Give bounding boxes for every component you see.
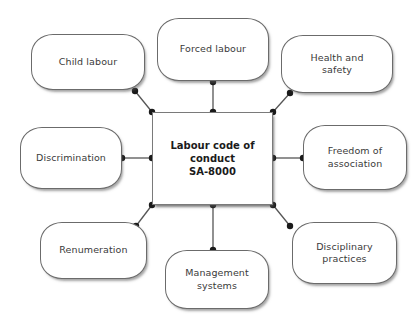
node-forced-labour[interactable]: Forced labour [157, 18, 269, 81]
node-center-labour-code-label: Labour code ofconductSA-8000 [170, 139, 254, 178]
node-forced-labour-label: Forced labour [174, 43, 252, 56]
node-health-safety[interactable]: Health andsafety [281, 35, 393, 93]
edge-renumeration [136, 205, 152, 226]
node-management-systems-label: Managementsystems [179, 267, 255, 292]
dot-disciplinary [287, 223, 293, 229]
diagram-canvas: Child labour Forced labour Health andsaf… [0, 0, 420, 323]
node-management-systems[interactable]: Managementsystems [165, 250, 269, 309]
node-freedom-of-association-label: Freedom ofassociation [322, 145, 389, 170]
node-discrimination[interactable]: Discrimination [20, 127, 122, 189]
node-renumeration-label: Renumeration [53, 244, 133, 257]
node-disciplinary-practices[interactable]: Disciplinarypractices [292, 222, 397, 284]
node-health-safety-label: Health andsafety [304, 52, 369, 77]
edge-disciplinary [273, 205, 290, 226]
node-renumeration[interactable]: Renumeration [40, 222, 147, 279]
dot-child-labour [132, 88, 138, 94]
node-center-labour-code[interactable]: Labour code ofconductSA-8000 [152, 112, 273, 205]
edge-child-labour [135, 91, 152, 112]
edge-health-safety [273, 93, 290, 112]
node-freedom-of-association[interactable]: Freedom ofassociation [303, 125, 407, 190]
node-disciplinary-practices-label: Disciplinarypractices [310, 241, 379, 266]
node-child-labour[interactable]: Child labour [31, 34, 145, 90]
node-child-labour-label: Child labour [53, 56, 123, 69]
node-discrimination-label: Discrimination [30, 152, 112, 165]
